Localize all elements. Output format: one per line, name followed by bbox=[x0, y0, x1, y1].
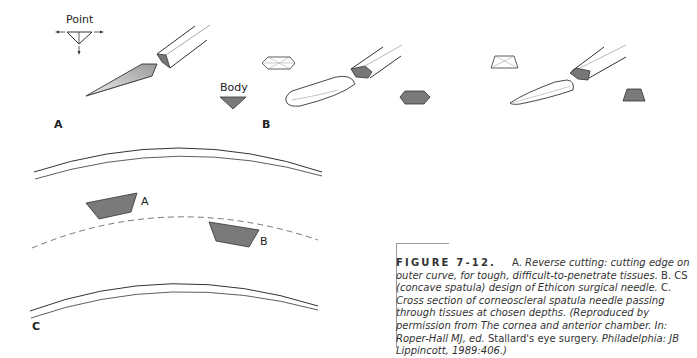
spatula-trapezoid-outline-icon bbox=[491, 56, 518, 68]
needle-cross-section-b bbox=[209, 222, 259, 247]
caption-part-b-text: (concave spatula) design of Ethicon surg… bbox=[396, 282, 658, 293]
panel-label-b: B bbox=[262, 118, 270, 131]
spatula-needle-shaft bbox=[570, 45, 626, 80]
needle-b-label: B bbox=[260, 235, 268, 248]
caption-part-c-label: C. bbox=[661, 282, 671, 293]
reverse-cutting-needle-shaft bbox=[157, 25, 210, 68]
needle-cross-section-a bbox=[86, 193, 137, 219]
spatula-needle-tip bbox=[510, 80, 573, 104]
cs-hexagon-outline-icon bbox=[262, 57, 295, 69]
spatula-trapezoid-filled-icon bbox=[623, 89, 645, 101]
caption-book-title: Stallard's eye surgery. bbox=[488, 333, 599, 344]
figure-number: FIGURE 7-12. bbox=[396, 257, 496, 268]
cs-needle-shaft bbox=[351, 45, 402, 78]
caption-part-a-label: A. bbox=[512, 257, 522, 268]
panel-label-a: A bbox=[54, 118, 63, 131]
point-triangle-icon bbox=[55, 31, 104, 56]
cs-needle-tip bbox=[286, 76, 355, 106]
reverse-cutting-needle-tip bbox=[86, 64, 157, 96]
needle-a-label: A bbox=[141, 195, 149, 208]
panel-label-c: C bbox=[32, 320, 40, 333]
caption-part-b-label: B. CS bbox=[661, 270, 688, 281]
body-label: Body bbox=[220, 81, 248, 94]
body-triangle-icon bbox=[220, 97, 246, 109]
point-label: Point bbox=[66, 13, 93, 26]
cs-hexagon-filled-icon bbox=[400, 91, 430, 104]
figure-caption: FIGURE 7-12. A. Reverse cutting: cutting… bbox=[396, 257, 696, 358]
tissue-layers bbox=[30, 148, 322, 318]
